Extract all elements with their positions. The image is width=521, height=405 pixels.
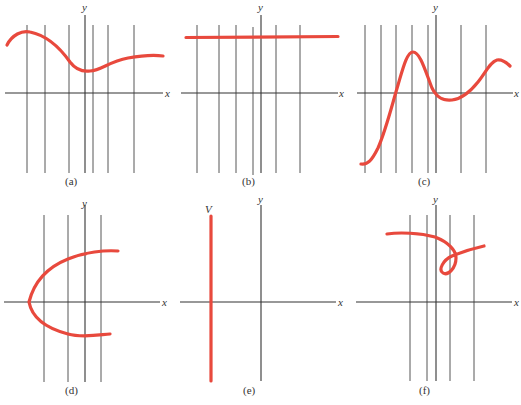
y-axis-label: y [432,1,438,13]
y-axis-label: y [257,1,263,13]
vertical-test-lines [27,25,134,173]
x-axis-label: x [337,296,343,308]
panel-caption: (a) [65,175,78,188]
panel-caption: (b) [242,175,255,188]
panel-caption: (d) [65,384,78,397]
panel-caption: (e) [243,384,256,397]
y-axis-label: y [432,193,438,205]
vertical-line-label: V [205,203,213,215]
x-axis-label: x [513,296,519,308]
vertical-line-test-figure: y x (a) y x (b) [0,0,521,405]
y-axis-label: y [81,197,87,209]
y-axis-label: y [257,193,263,205]
panel-caption: (f) [419,384,430,397]
x-axis-label: x [513,87,519,99]
x-axis-label: x [338,87,344,99]
panel-f: y x (f) [356,193,519,397]
panel-d: y x (d) [4,197,167,397]
vertical-test-lines [365,25,486,173]
y-axis-label: y [81,1,87,13]
sideways-parabola [29,251,118,336]
panel-a: y x (a) [5,1,170,188]
panel-b: y x (b) [181,1,344,188]
panel-c: y x (c) [357,1,519,188]
panel-e: V y x (e) [180,193,343,397]
vertical-test-lines [197,25,300,175]
vertical-test-lines [44,215,101,382]
panel-caption: (c) [418,175,431,188]
x-axis-label: x [164,87,170,99]
x-axis-label: x [161,296,167,308]
horizontal-line [186,37,338,38]
